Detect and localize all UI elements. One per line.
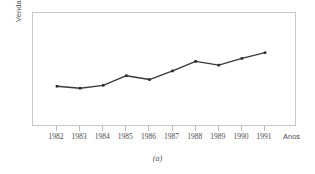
x-tick-mark-1989 <box>218 126 219 131</box>
x-tick-label-1984: 1984 <box>90 132 114 141</box>
x-tick-mark-1982 <box>56 126 57 131</box>
x-tick-label-1986: 1986 <box>136 132 160 141</box>
data-point-1987 <box>171 70 174 73</box>
x-tick-label-1983: 1983 <box>67 132 91 141</box>
x-tick-mark-1986 <box>148 126 149 131</box>
y-axis-label: Vendas, x <box>14 0 26 34</box>
data-point-1982 <box>56 85 59 88</box>
data-point-1991 <box>264 51 267 54</box>
x-tick-mark-1988 <box>195 126 196 131</box>
figure-caption: (a) <box>0 154 315 163</box>
x-tick-label-1987: 1987 <box>160 132 184 141</box>
x-tick-mark-1991 <box>264 126 265 131</box>
data-point-1990 <box>241 57 244 60</box>
y-axis-label-text: Vendas, x <box>14 0 23 22</box>
x-tick-label-1985: 1985 <box>113 132 137 141</box>
x-tick-label-1982: 1982 <box>44 132 68 141</box>
data-point-1989 <box>217 64 220 67</box>
data-point-1988 <box>194 60 197 63</box>
x-tick-label-1990: 1990 <box>229 132 253 141</box>
x-axis-label: Anos <box>283 132 300 141</box>
x-tick-mark-1983 <box>79 126 80 131</box>
x-tick-label-1989: 1989 <box>206 132 230 141</box>
series-line <box>57 53 265 89</box>
x-tick-mark-1984 <box>102 126 103 131</box>
plot-area <box>32 12 296 126</box>
x-tick-label-1991: 1991 <box>252 132 276 141</box>
figure-caption-text: (a) <box>153 154 162 163</box>
data-point-1985 <box>125 74 128 77</box>
x-tick-mark-1985 <box>125 126 126 131</box>
data-point-1983 <box>79 87 82 90</box>
x-tick-label-1988: 1988 <box>183 132 207 141</box>
figure-sales-over-years: Vendas, x 198219831984198519861987198819… <box>0 0 315 174</box>
x-tick-mark-1987 <box>172 126 173 131</box>
line-series-svg <box>33 13 297 127</box>
data-point-1986 <box>148 78 151 81</box>
data-point-1984 <box>102 84 105 87</box>
x-tick-mark-1990 <box>241 126 242 131</box>
